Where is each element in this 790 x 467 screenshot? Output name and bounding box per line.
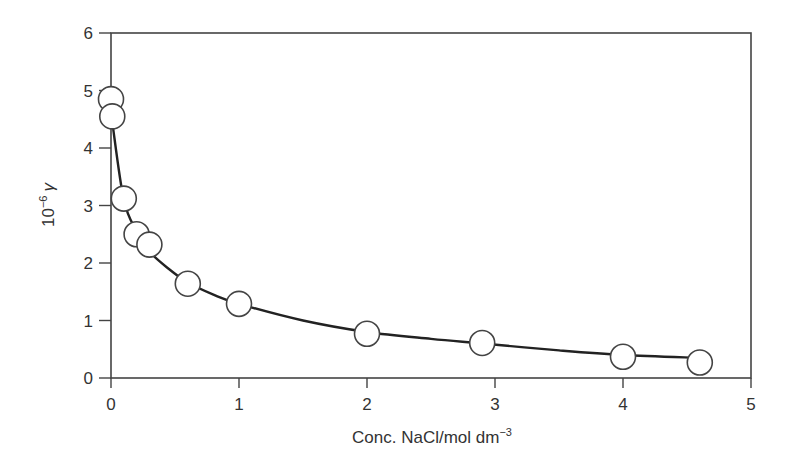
x-tick-label: 2 (362, 395, 371, 414)
x-tick-label: 0 (106, 395, 115, 414)
chart-canvas: 0123450123456 Conc. NaCl/mol dm−3 10−6γ (0, 0, 790, 467)
y-axis-label: 10−6γ (37, 182, 58, 227)
fit-curve (112, 122, 700, 358)
data-point-marker (687, 350, 712, 375)
data-point-marker (355, 321, 380, 346)
fit-line (112, 122, 700, 358)
y-tick-label: 1 (84, 312, 93, 331)
x-tick-label: 1 (234, 395, 243, 414)
data-point-marker (611, 344, 636, 369)
data-point-marker (100, 104, 125, 129)
y-tick-label: 3 (84, 197, 93, 216)
plot-border (111, 33, 751, 378)
y-tick-label: 4 (84, 139, 93, 158)
y-tick-label: 5 (84, 82, 93, 101)
data-points (99, 87, 713, 375)
data-point-marker (175, 271, 200, 296)
y-tick-label: 2 (84, 254, 93, 273)
data-point-marker (227, 291, 252, 316)
x-tick-label: 3 (490, 395, 499, 414)
data-point-marker (137, 232, 162, 257)
x-tick-label: 5 (746, 395, 755, 414)
plot-frame (111, 33, 751, 378)
x-axis-label: Conc. NaCl/mol dm−3 (352, 426, 512, 447)
y-tick-label: 6 (84, 24, 93, 43)
y-tick-label: 0 (84, 369, 93, 388)
data-point-marker (470, 330, 495, 355)
x-tick-label: 4 (618, 395, 627, 414)
data-point-marker (111, 186, 136, 211)
